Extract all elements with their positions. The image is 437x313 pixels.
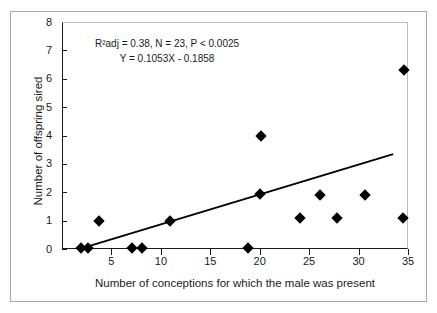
x-tick-label-10: 10 [141, 256, 181, 267]
x-tick-label-35: 35 [388, 256, 428, 267]
stats-annotation: R²adj = 0.38, N = 23, P < 0.0025 Y = 0.1… [95, 37, 239, 66]
x-tick-label-15: 15 [190, 256, 230, 267]
stats-line-1: R²adj = 0.38, N = 23, P < 0.0025 [95, 37, 239, 52]
y-tick-0 [62, 249, 67, 250]
y-tick-3 [62, 164, 67, 165]
figure-container: 0 1 2 3 4 5 6 7 8 5 10 15 20 25 30 35 Nu… [0, 0, 437, 313]
y-tick-1 [62, 221, 67, 222]
y-axis-title: Number of offspring sired [32, 21, 44, 261]
x-tick-label-5: 5 [91, 256, 131, 267]
y-tick-2 [62, 192, 67, 193]
x-axis-title: Number of conceptions for which the male… [62, 277, 408, 289]
x-tick-label-25: 25 [289, 256, 329, 267]
y-tick-6 [62, 79, 67, 80]
x-tick-label-30: 30 [339, 256, 379, 267]
stats-line-2: Y = 0.1053X - 0.1858 [95, 52, 239, 67]
y-tick-7 [62, 50, 67, 51]
x-tick-label-20: 20 [240, 256, 280, 267]
y-tick-4 [62, 136, 67, 137]
y-tick-5 [62, 107, 67, 108]
